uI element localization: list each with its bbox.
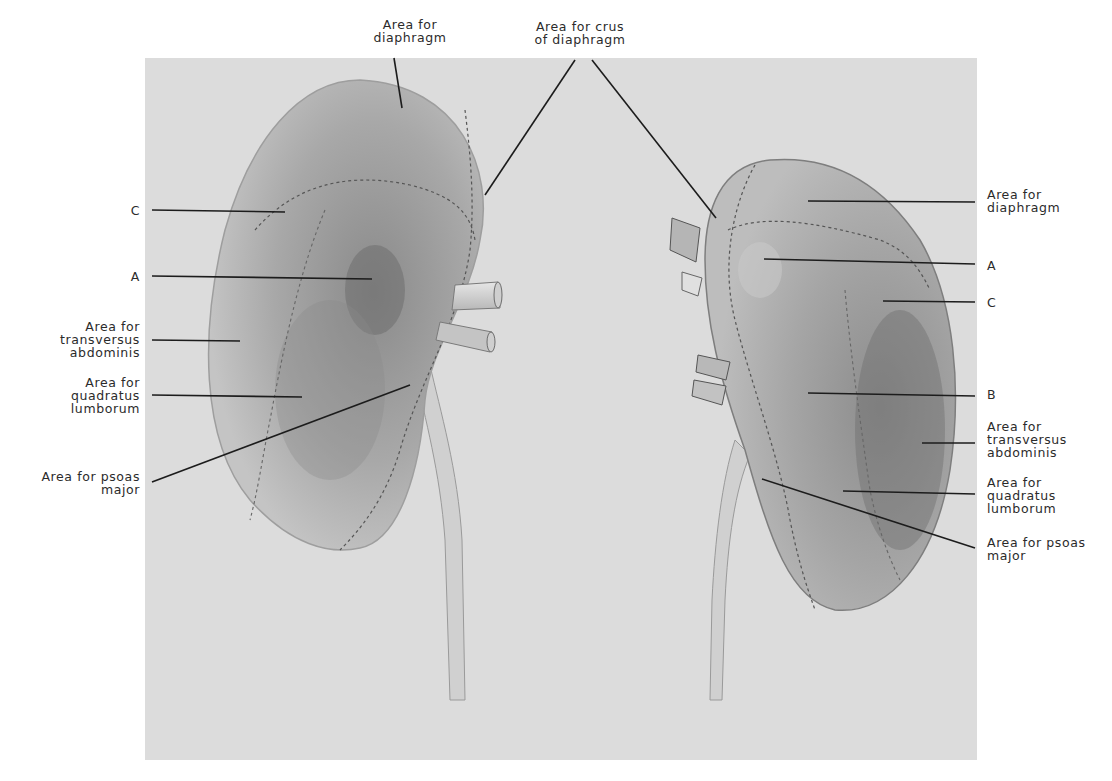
label-right-a: A (987, 259, 1027, 272)
kidney-illustration (0, 0, 1112, 781)
label-right-psoas: Area for psoas major (987, 536, 1112, 562)
label-left-psoas: Area for psoas major (10, 470, 140, 496)
label-right-area-diaphragm: Area for diaphragm (987, 188, 1107, 214)
label-right-b: B (987, 388, 1027, 401)
label-left-area-diaphragm: Area for diaphragm (365, 18, 455, 44)
label-right-quadratus: Area for quadratus lumborum (987, 476, 1107, 515)
label-left-a: A (100, 270, 140, 283)
left-kidney (209, 80, 502, 700)
label-right-c: C (987, 296, 1027, 309)
right-kidney (670, 159, 955, 700)
label-left-quadratus: Area for quadratus lumborum (40, 376, 140, 415)
label-left-c: C (100, 204, 140, 217)
right-ureter (710, 440, 750, 700)
label-left-transversus: Area for transversus abdominis (40, 320, 140, 359)
label-area-crus-diaphragm: Area for crus of diaphragm (525, 20, 635, 46)
label-right-transversus: Area for transversus abdominis (987, 420, 1107, 459)
